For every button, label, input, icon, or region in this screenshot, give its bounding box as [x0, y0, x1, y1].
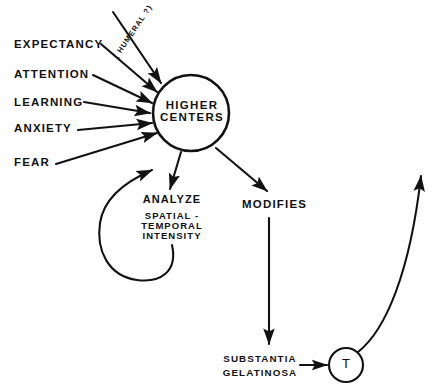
higher-centers-label: HIGHER CENTERS — [156, 99, 228, 123]
substantia-gelatinosa-label: SUBSTANTIA GELATINOSA — [222, 352, 298, 380]
diagram-vector-layer — [0, 0, 437, 389]
analyze-line-intensity: INTENSITY — [130, 231, 214, 241]
arrow-anxiety — [78, 123, 152, 130]
analyze-detail-block: SPATIAL - TEMPORAL INTENSITY — [130, 211, 214, 241]
input-label-attention: ATTENTION — [14, 68, 89, 80]
higher-centers-line1: HIGHER — [156, 99, 228, 111]
substantia-line1: SUBSTANTIA — [222, 352, 298, 366]
higher-centers-line2: CENTERS — [156, 111, 228, 123]
analyze-heading: ANALYZE — [130, 194, 214, 206]
substantia-line2: GELATINOSA — [222, 366, 298, 380]
input-label-learning: LEARNING — [14, 96, 83, 108]
modifies-label: MODIFIES — [242, 198, 307, 210]
arrow-to-modifies — [216, 148, 267, 191]
input-label-fear: FEAR — [14, 156, 50, 168]
arrow-fear — [56, 133, 157, 164]
input-label-anxiety: ANXIETY — [14, 122, 72, 134]
arrow-expectancy — [101, 44, 157, 92]
input-label-expectancy: EXPECTANCY — [14, 38, 103, 50]
diagram-canvas: EXPECTANCY ATTENTION LEARNING ANXIETY FE… — [0, 0, 437, 389]
arrow-learning — [84, 102, 150, 113]
arrow-to-analyze — [170, 152, 181, 189]
t-node-label: T — [342, 357, 350, 371]
t-output-arrow — [358, 176, 421, 352]
